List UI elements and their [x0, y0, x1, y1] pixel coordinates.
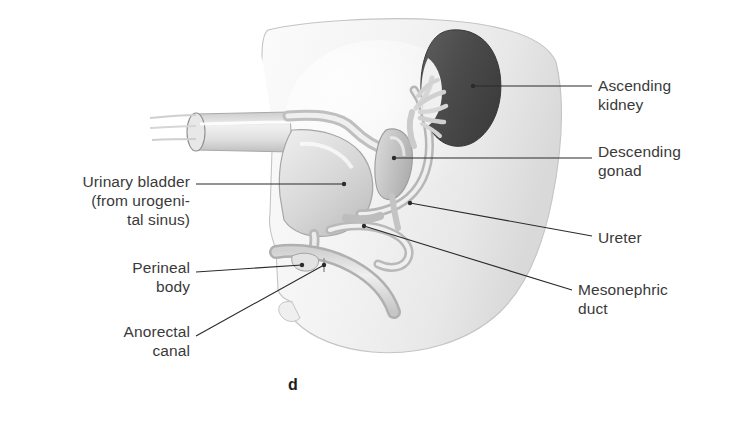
dot-mesonephric-duct: [362, 224, 366, 228]
figure-page: Urinary bladder (from urogeni- tal sinus…: [0, 0, 730, 422]
dot-anorectal-canal: [322, 263, 326, 267]
dot-perineal-body: [300, 263, 304, 267]
label-ureter: Ureter: [598, 228, 724, 247]
dot-urinary-bladder: [342, 182, 346, 186]
dot-ascending-kidney: [471, 84, 475, 88]
label-perineal-body: Perineal body: [8, 258, 190, 296]
dot-descending-gonad: [392, 156, 396, 160]
figure-letter: d: [283, 376, 303, 394]
label-anorectal-canal: Anorectal canal: [8, 322, 190, 360]
label-urinary-bladder: Urinary bladder (from urogeni- tal sinus…: [8, 172, 190, 229]
perineal-body: [292, 253, 319, 271]
label-ascending-kidney: Ascending kidney: [598, 76, 724, 114]
label-mesonephric-duct: Mesonephric duct: [578, 280, 728, 318]
cut-tube: [150, 112, 292, 152]
dot-ureter: [408, 201, 412, 205]
label-descending-gonad: Descending gonad: [598, 142, 724, 180]
